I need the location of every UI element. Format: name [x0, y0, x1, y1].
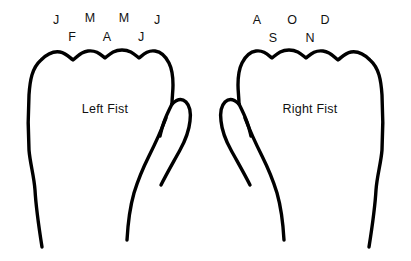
right-fist-thumb-outer [221, 100, 250, 185]
right-fist-wrist-edge [245, 118, 284, 240]
left-knuckle-letter-2: M [85, 11, 95, 25]
right-valley-letter-1: S [269, 31, 277, 45]
knuckle-months-figure: J M M J F A J Left Fist A O [0, 0, 411, 261]
left-fist-caption: Left Fist [82, 102, 129, 116]
left-fist-thumb-outer [161, 100, 190, 185]
right-fist-valley-letters: S N [269, 31, 315, 45]
left-knuckle-letter-1: J [53, 13, 59, 27]
right-fist-knuckle-letters: A O D [253, 13, 330, 27]
right-valley-letter-2: N [305, 31, 314, 45]
left-knuckle-letter-4: J [154, 13, 160, 27]
left-valley-letter-1: F [68, 30, 76, 44]
left-fist-wrist-edge [127, 118, 166, 240]
right-knuckle-letter-3: D [320, 13, 329, 27]
right-fist-caption: Right Fist [283, 102, 338, 116]
left-fist-drawing [28, 50, 190, 247]
right-knuckle-letter-2: O [287, 13, 297, 27]
right-fist-drawing [221, 50, 383, 247]
left-knuckle-letter-3: M [119, 11, 129, 25]
fists-illustration: J M M J F A J Left Fist A O [0, 0, 411, 261]
left-fist-valley-letters: F A J [68, 30, 144, 44]
left-fist-knuckle-letters: J M M J [53, 11, 160, 27]
right-knuckle-letter-1: A [253, 13, 262, 27]
left-valley-letter-2: A [103, 30, 112, 44]
left-valley-letter-3: J [138, 30, 144, 44]
